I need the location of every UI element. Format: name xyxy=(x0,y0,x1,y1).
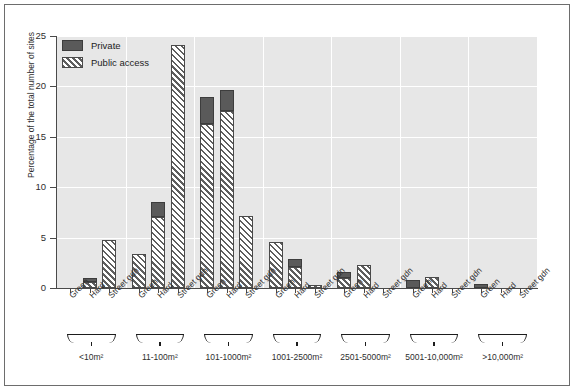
group-label: 1001-2500m² xyxy=(263,352,332,362)
plot-area xyxy=(57,36,537,288)
bar-segment-private xyxy=(220,90,234,110)
bar xyxy=(200,97,214,288)
group-label: >10,000m² xyxy=(468,352,537,362)
legend-item-private: Private xyxy=(62,39,149,52)
y-axis-tick-label: 10 xyxy=(20,182,46,192)
bar-segment-public-access xyxy=(220,111,234,288)
bar-segment-public-access xyxy=(239,216,253,288)
group-brace xyxy=(341,334,390,343)
bar-segment-public-access xyxy=(102,240,116,288)
y-axis-tick-label: 25 xyxy=(20,31,46,41)
gridline-horizontal xyxy=(57,86,537,87)
private-swatch-icon xyxy=(62,40,83,51)
group-label: <10m² xyxy=(57,352,126,362)
gridline-horizontal xyxy=(57,137,537,138)
y-axis-tick xyxy=(50,36,56,37)
y-axis-tick xyxy=(50,86,56,87)
gridline-horizontal xyxy=(57,238,537,239)
group-brace xyxy=(136,334,185,343)
bar xyxy=(239,216,253,288)
gridline-vertical xyxy=(400,36,401,288)
group-brace xyxy=(478,334,527,343)
public-swatch-icon xyxy=(62,57,83,68)
bar-segment-private xyxy=(200,97,214,123)
gridline-horizontal xyxy=(57,36,537,37)
gridline-vertical xyxy=(126,36,127,288)
gridline-vertical xyxy=(331,36,332,288)
gridline-vertical xyxy=(194,36,195,288)
bar-segment-public-access xyxy=(171,45,185,288)
bar xyxy=(102,240,116,288)
group-label: 5001-10,000m² xyxy=(400,352,469,362)
y-axis-tick xyxy=(50,288,56,289)
gridline-horizontal xyxy=(57,187,537,188)
figure-root: Percentage of the total number of sites … xyxy=(0,0,574,390)
group-brace xyxy=(273,334,322,343)
legend-label-public: Public access xyxy=(91,57,149,68)
legend-label-private: Private xyxy=(91,40,121,51)
group-label: 101-1000m² xyxy=(194,352,263,362)
group-brace xyxy=(410,334,459,343)
y-axis-tick-label: 20 xyxy=(20,81,46,91)
bar xyxy=(151,202,165,288)
bar xyxy=(220,90,234,288)
gridline-vertical xyxy=(468,36,469,288)
y-axis-tick-label: 5 xyxy=(20,233,46,243)
gridline-vertical xyxy=(263,36,264,288)
bar-segment-private xyxy=(288,259,302,267)
bar-segment-private xyxy=(151,202,165,217)
legend: Private Public access xyxy=(62,39,149,73)
group-brace xyxy=(67,334,116,343)
group-label: 11-100m² xyxy=(126,352,195,362)
y-axis-tick xyxy=(50,137,56,138)
group-label: 2501-5000m² xyxy=(331,352,400,362)
bar-segment-public-access xyxy=(200,124,214,288)
y-axis-tick xyxy=(50,187,56,188)
y-axis-tick-label: 15 xyxy=(20,132,46,142)
group-brace xyxy=(204,334,253,343)
y-axis-line xyxy=(56,36,57,289)
y-axis-tick xyxy=(50,238,56,239)
y-axis-tick-label: 0 xyxy=(20,283,46,293)
legend-item-public: Public access xyxy=(62,56,149,69)
bar xyxy=(171,45,185,288)
